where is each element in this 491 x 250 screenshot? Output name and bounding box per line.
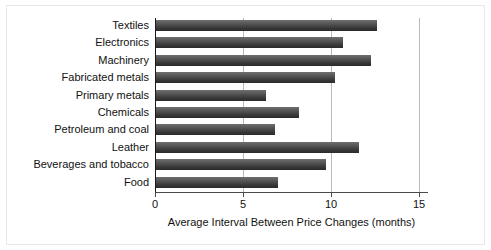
bar-chemicals [155,107,299,118]
bar-food [155,177,278,188]
category-label-primary-metals: Primary metals [0,89,149,101]
x-tick-label-0: 0 [152,198,158,210]
bar-textiles [155,20,377,31]
bar-row [155,55,371,66]
bar-row [155,177,278,188]
bar-row [155,124,275,135]
x-axis-title: Average Interval Between Price Changes (… [155,216,428,228]
bar-row [155,159,326,170]
x-tick-label-10: 10 [325,198,337,210]
bar-beverages-and-tobacco [155,159,326,170]
x-axis-line [155,192,428,193]
x-tick-15 [419,192,420,197]
category-label-electronics: Electronics [0,36,149,48]
bar-fabricated-metals [155,72,335,83]
category-label-machinery: Machinery [0,54,149,66]
bar-row [155,37,343,48]
bar-primary-metals [155,90,266,101]
bar-leather [155,142,359,153]
bar-row [155,72,335,83]
x-tick-label-5: 5 [240,198,246,210]
x-tick-0 [155,192,156,197]
bar-electronics [155,37,343,48]
bar-row [155,90,266,101]
bar-petroleum-and-coal [155,124,275,135]
bar-row [155,142,359,153]
bar-row [155,107,299,118]
chart-figure: TextilesElectronicsMachineryFabricated m… [0,0,491,250]
gridline-15 [419,18,420,192]
x-tick-5 [243,192,244,197]
category-label-food: Food [0,176,149,188]
bar-machinery [155,55,371,66]
category-label-chemicals: Chemicals [0,106,149,118]
category-label-petroleum-and-coal: Petroleum and coal [0,123,149,135]
category-label-fabricated-metals: Fabricated metals [0,71,149,83]
category-label-textiles: Textiles [0,19,149,31]
x-tick-10 [331,192,332,197]
category-label-leather: Leather [0,141,149,153]
bar-row [155,20,377,31]
category-label-beverages-and-tobacco: Beverages and tobacco [0,158,149,170]
x-tick-label-15: 15 [413,198,425,210]
y-axis-line [155,18,156,193]
